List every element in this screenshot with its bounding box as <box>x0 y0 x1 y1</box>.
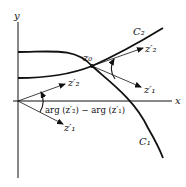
tangent-z1-at-z0 <box>92 66 141 87</box>
vector-z2-label-at-origin: z′₂ <box>67 77 80 88</box>
diagram-canvas: y x z₀ C₂ C₁ z′₂ z′₁ z′₂ z′₁ arg (z′₂) −… <box>0 0 186 187</box>
tangent-z2-at-z0 <box>92 48 143 66</box>
curve-c1-label: C₁ <box>139 136 151 147</box>
angle-label: arg (z′₂) − arg (z′₁) <box>45 105 125 115</box>
x-axis-label: x <box>175 95 181 106</box>
angle-arc-at-origin <box>40 92 43 112</box>
y-axis-label: y <box>13 10 20 21</box>
tangent-z2-label-at-z0: z′₂ <box>144 43 157 54</box>
vector-z1-label-at-origin: z′₁ <box>63 122 76 133</box>
conformal-mapping-diagram: y x z₀ C₂ C₁ z′₂ z′₁ z′₂ z′₁ arg (z′₂) −… <box>0 0 186 187</box>
point-z0-label: z₀ <box>82 52 92 63</box>
curve-c2-label: C₂ <box>133 26 145 37</box>
tangent-z1-label-at-z0: z′₁ <box>143 84 156 95</box>
